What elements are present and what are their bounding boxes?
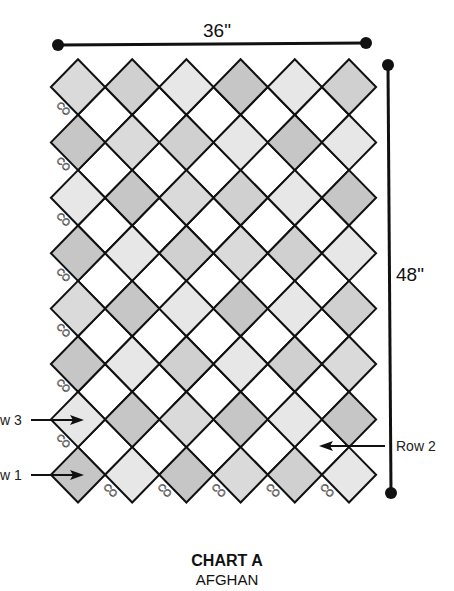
width-dimension: 36" — [52, 20, 372, 51]
height-label: 48" — [396, 264, 424, 285]
chart-subtitle: AFGHAN — [0, 571, 454, 588]
width-label: 36" — [203, 20, 231, 41]
afghan-chart-diagram: 36" 48" COCOCOCOCOCOCOCOCOCOCOCO w 3 w 1… — [0, 0, 454, 591]
diamond-grid — [51, 59, 376, 502]
height-dimension: 48" — [382, 59, 424, 499]
row-2-label: Row 2 — [396, 438, 436, 454]
row-3-label: w 3 — [0, 412, 22, 428]
row-1-label: w 1 — [0, 467, 22, 483]
chart-title: CHART A — [0, 552, 454, 570]
